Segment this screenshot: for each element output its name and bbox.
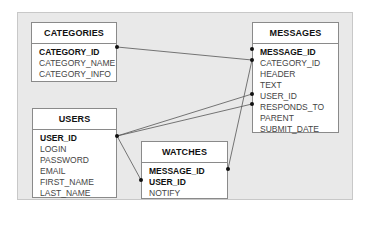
field-submit-date: SUBMIT_DATE bbox=[260, 124, 338, 135]
field-notify: NOTIFY bbox=[149, 188, 227, 199]
entity-title: CATEGORIES bbox=[32, 23, 116, 44]
field-parent: PARENT bbox=[260, 113, 338, 124]
field-login: LOGIN bbox=[40, 144, 116, 155]
field-text: TEXT bbox=[260, 80, 338, 91]
field-user-id: USER_ID bbox=[260, 91, 338, 102]
field-category-id: CATEGORY_ID bbox=[39, 47, 116, 58]
entity-categories: CATEGORIES CATEGORY_ID CATEGORY_NAME CAT… bbox=[31, 22, 117, 82]
entity-title: WATCHES bbox=[142, 142, 227, 163]
field-first-name: FIRST_NAME bbox=[40, 177, 116, 188]
entity-messages: MESSAGES MESSAGE_ID CATEGORY_ID HEADER T… bbox=[252, 22, 339, 133]
field-message-id: MESSAGE_ID bbox=[149, 166, 227, 177]
field-message-id: MESSAGE_ID bbox=[260, 47, 338, 58]
entity-users: USERS USER_ID LOGIN PASSWORD EMAIL FIRST… bbox=[32, 108, 117, 198]
field-category-id: CATEGORY_ID bbox=[260, 58, 338, 69]
entity-title: MESSAGES bbox=[253, 23, 338, 44]
field-category-info: CATEGORY_INFO bbox=[39, 69, 116, 80]
field-category-name: CATEGORY_NAME bbox=[39, 58, 116, 69]
field-user-id: USER_ID bbox=[40, 133, 116, 144]
field-email: EMAIL bbox=[40, 166, 116, 177]
field-user-id: USER_ID bbox=[149, 177, 227, 188]
field-header: HEADER bbox=[260, 69, 338, 80]
field-password: PASSWORD bbox=[40, 155, 116, 166]
field-responds-to: RESPONDS_TO bbox=[260, 102, 338, 113]
entity-title: USERS bbox=[33, 109, 116, 130]
field-last-name: LAST_NAME bbox=[40, 188, 116, 199]
entity-watches: WATCHES MESSAGE_ID USER_ID NOTIFY bbox=[141, 141, 228, 199]
